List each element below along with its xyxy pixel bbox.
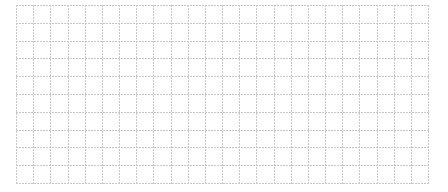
- grid-lines: [16, 5, 429, 184]
- grid-canvas: [16, 5, 429, 184]
